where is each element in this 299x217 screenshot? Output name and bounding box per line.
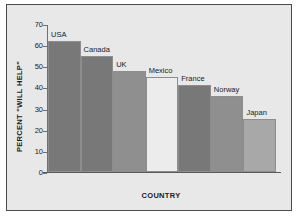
bar-rect	[243, 119, 276, 172]
bar-rect	[48, 41, 81, 172]
y-axis-title: PERCENT "WILL HELP"	[11, 41, 27, 171]
bar: UK	[113, 71, 146, 172]
y-tick-label: 60	[35, 41, 43, 50]
bar-rect	[113, 71, 146, 172]
bar-category-label: UK	[116, 60, 126, 69]
y-tick-label: 40	[35, 83, 43, 92]
bar: Japan	[243, 119, 276, 172]
y-tick-mark	[43, 88, 47, 89]
bar-rect	[178, 85, 211, 172]
chart-figure: PERCENT "WILL HELP" 010203040506070 USAC…	[6, 4, 292, 211]
y-tick-mark	[43, 46, 47, 47]
y-tick-label: 20	[35, 126, 43, 135]
y-tick-mark	[43, 173, 47, 174]
bar: Canada	[81, 56, 114, 172]
bar: USA	[48, 41, 81, 172]
bar-category-label: Canada	[84, 45, 110, 54]
y-tick-mark	[43, 67, 47, 68]
bar-category-label: France	[181, 74, 204, 83]
x-axis-title: COUNTRY	[47, 191, 275, 200]
bar-series: USACanadaUKMexicoFranceNorwayJapan	[48, 25, 275, 172]
y-tick-label: 70	[35, 20, 43, 29]
bar-category-label: Mexico	[149, 66, 173, 75]
y-tick-label: 50	[35, 62, 43, 71]
y-axis-title-text: PERCENT "WILL HELP"	[15, 60, 24, 151]
y-tick-mark	[43, 110, 47, 111]
y-tick-mark	[43, 131, 47, 132]
bar-rect	[146, 77, 179, 172]
plot-area: 010203040506070 USACanadaUKMexicoFranceN…	[47, 25, 275, 173]
y-tick-label: 30	[35, 105, 43, 114]
bar-rect	[211, 96, 244, 172]
y-tick-label: 10	[35, 147, 43, 156]
bar: Mexico	[146, 77, 179, 172]
y-tick-mark	[43, 152, 47, 153]
bar: France	[178, 85, 211, 172]
bar-rect	[81, 56, 114, 172]
bar-category-label: Japan	[246, 108, 266, 117]
y-tick-mark	[43, 25, 47, 26]
bar: Norway	[211, 96, 244, 172]
bar-category-label: Norway	[214, 85, 239, 94]
bar-category-label: USA	[51, 30, 66, 39]
x-axis-line	[43, 172, 281, 173]
